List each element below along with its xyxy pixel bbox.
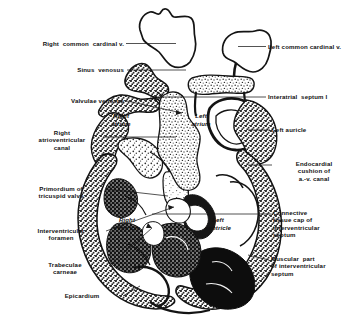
- label-left-atrium: Left atrium: [181, 112, 221, 127]
- label-muscular-part-of-interventricular-septum: Muscular part of interventricular septum: [271, 255, 355, 277]
- label-right-common-cardinal-v: Right common cardinal v.: [12, 40, 124, 47]
- right-common-cardinal-vein-lumen: [140, 9, 196, 68]
- label-left-common-cardinal-v: Left common cardinal v.: [268, 43, 356, 50]
- label-sinus-venosus: Sinus venosus: [42, 66, 124, 73]
- label-connective-tissue-cap-of-interventricular-septum: Connective tissue cap of interventricula…: [273, 209, 355, 239]
- label-right-atrium: Right atrium: [100, 112, 142, 127]
- label-valvulae-venosae: Valvulae venosae: [32, 97, 124, 104]
- label-primordium-of-tricuspid-valve: Primordium of tricuspid valve: [18, 185, 104, 200]
- label-interatrial-septum-i: Interatrial septum I: [268, 93, 356, 100]
- label-interventricular-foramen: Interventricular foramen: [18, 227, 104, 242]
- label-right-atrioventricular-canal: Right atrioventricular canal: [24, 129, 100, 151]
- label-left-auricle: Left auricle: [272, 126, 356, 133]
- interventricular-foramen-opening: [166, 198, 191, 223]
- label-endocardial-cushion-of-av-canal: Endocardial cushion of a.-v. canal: [274, 160, 354, 182]
- label-epicardium: Epicardium: [44, 292, 120, 299]
- heart-diagram-figure: Right common cardinal v. Sinus venosus V…: [0, 0, 357, 327]
- label-trabeculae-carneae: Trabeculae carneae: [24, 261, 106, 276]
- label-right-ventricle: Right ventricle: [104, 216, 150, 231]
- label-left-ventricle: Left ventricle: [196, 216, 240, 231]
